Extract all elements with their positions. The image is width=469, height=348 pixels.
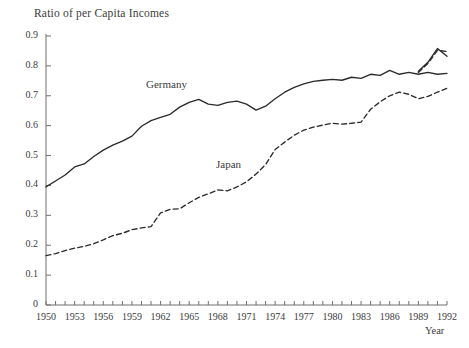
series-label-japan: Japan [216, 158, 241, 170]
y-axis-tick-label: 0.6 [12, 119, 38, 130]
y-axis-tick-label: 0.4 [12, 178, 38, 189]
y-axis-tick-label: 0.1 [12, 268, 38, 279]
x-axis-title: Year [425, 325, 444, 336]
chart-plot-area [0, 0, 469, 348]
chart-title: Ratio of per Capita Incomes [34, 7, 169, 19]
y-axis-tick-label: 0.2 [12, 238, 38, 249]
y-axis-tick-label: 0 [12, 298, 38, 309]
series-label-germany: Germany [146, 78, 187, 90]
x-axis-tick-label: 1992 [430, 311, 464, 322]
series-line-japan [46, 88, 447, 255]
y-axis-tick-label: 0.5 [12, 149, 38, 160]
y-axis-tick-label: 0.9 [12, 29, 38, 40]
y-axis-tick-label: 0.3 [12, 208, 38, 219]
chart-figure: Ratio of per Capita Incomes Germany Japa… [0, 0, 469, 348]
y-axis-tick-label: 0.7 [12, 89, 38, 100]
series-line-germany [46, 70, 447, 187]
series-tail-germany [418, 49, 447, 72]
y-axis-tick-label: 0.8 [12, 59, 38, 70]
